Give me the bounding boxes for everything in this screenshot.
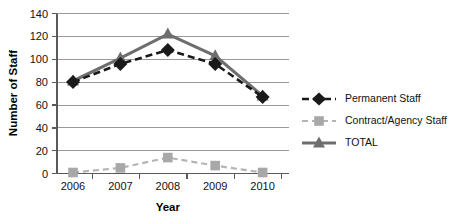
y-label-120: 120 (30, 30, 48, 42)
x-tick-marks (92, 174, 282, 179)
marker-contract-2008 (163, 153, 173, 163)
gridlines (57, 14, 289, 151)
marker-contract-2009 (210, 161, 220, 171)
staff-line-chart: 140 120 100 80 60 40 20 0 2006 2007 2008… (0, 0, 451, 221)
y-tick-marks (52, 14, 57, 174)
legend-label-contract-agency-staff: Contract/Agency Staff (345, 114, 447, 126)
y-label-60: 60 (36, 99, 48, 111)
legend-item-total[interactable]: TOTAL (302, 136, 378, 148)
x-label-2009: 2009 (203, 180, 227, 192)
series-permanent-staff (66, 43, 270, 104)
chart-canvas: 140 120 100 80 60 40 20 0 2006 2007 2008… (0, 0, 451, 221)
y-label-0: 0 (42, 168, 48, 180)
legend-label-total: TOTAL (345, 136, 378, 148)
y-label-100: 100 (30, 53, 48, 65)
y-label-80: 80 (36, 76, 48, 88)
marker-contract-2010 (258, 168, 268, 178)
x-label-2006: 2006 (61, 180, 85, 192)
x-tick-labels: 2006 2007 2008 2009 2010 (61, 180, 275, 192)
legend-marker-diamond-icon (312, 93, 326, 106)
y-label-40: 40 (36, 122, 48, 134)
x-label-2010: 2010 (250, 180, 274, 192)
marker-contract-2006 (68, 168, 78, 178)
y-tick-labels: 140 120 100 80 60 40 20 0 (30, 8, 48, 180)
legend-item-permanent-staff[interactable]: Permanent Staff (302, 92, 421, 105)
legend-marker-square-icon (314, 116, 324, 126)
marker-total-2008 (162, 28, 174, 39)
x-label-2007: 2007 (108, 180, 132, 192)
y-label-140: 140 (30, 8, 48, 20)
marker-contract-2007 (116, 163, 126, 173)
chart-legend: Permanent Staff Contract/Agency Staff TO… (302, 92, 447, 148)
legend-label-permanent-staff: Permanent Staff (345, 92, 421, 104)
series-total (67, 28, 269, 101)
y-label-20: 20 (36, 145, 48, 157)
marker-permanent-2008 (161, 43, 175, 57)
y-axis-title: Number of Staff (7, 50, 19, 136)
x-label-2008: 2008 (156, 180, 180, 192)
x-axis-title: Year (156, 201, 181, 213)
legend-item-contract-agency-staff[interactable]: Contract/Agency Staff (302, 114, 447, 126)
